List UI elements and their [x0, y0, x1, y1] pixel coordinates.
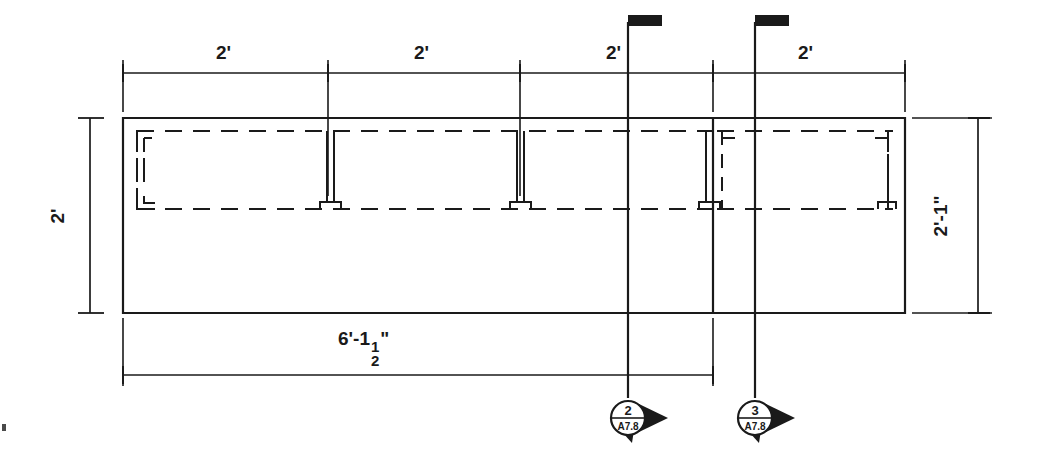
top-dimension-chain — [123, 60, 905, 196]
dim-bottom-inch-mark: " — [380, 328, 389, 349]
bottom-overall-dimension — [123, 318, 713, 386]
section-2-number: 2 — [624, 403, 631, 418]
section-3-flag-tab — [755, 15, 789, 26]
stud2-flange-bottom — [510, 202, 531, 209]
dim-bottom-fraction: 12 — [371, 340, 379, 369]
dim-label-top-3: 2' — [606, 42, 621, 64]
edge-registration-mark — [2, 424, 6, 431]
dim-label-left-vertical: 2' — [47, 201, 69, 231]
hidden-wall-lines — [137, 131, 893, 209]
dim-label-top-1: 2' — [216, 42, 231, 64]
dim-label-bottom-overall: 6'-112" — [338, 328, 389, 368]
dim-bottom-fraction-denominator: 2 — [371, 354, 379, 368]
section-3-number: 3 — [751, 403, 758, 418]
dim-label-top-2: 2' — [414, 42, 429, 64]
section-2-flag-tab — [628, 15, 662, 26]
right-slab-outline — [713, 118, 905, 313]
interior-stud-1 — [320, 131, 341, 209]
left-vertical-dimension — [78, 118, 104, 313]
corner-stud-left — [137, 131, 155, 209]
corner-stud-right-top — [875, 138, 888, 152]
dim-label-right-vertical: 2'-1" — [930, 181, 952, 251]
slab-outlines — [123, 118, 905, 313]
hidden-wall-returns — [722, 131, 888, 209]
divstud-flange-bottom — [699, 202, 720, 209]
architectural-drawing-svg: 2 A7.8 3 A7.8 — [0, 0, 1037, 455]
division-stud — [699, 131, 735, 209]
corner-stud-right — [875, 138, 896, 209]
stud1-flange-bottom — [320, 202, 341, 209]
corner-stud-left-bottom — [137, 188, 155, 209]
right-vertical-dimension — [912, 118, 992, 313]
left-slab-outline — [123, 118, 713, 313]
section-3-sheet: A7.8 — [744, 421, 766, 432]
section-2-sheet: A7.8 — [617, 421, 639, 432]
section-marker-2[interactable]: 2 A7.8 — [611, 401, 668, 443]
corner-stud-left-foot — [144, 196, 155, 203]
drawing-canvas: 2 A7.8 3 A7.8 2' 2' 2' 2' 2' 2'-1" 6'-11… — [0, 0, 1037, 455]
dim-label-top-4: 2' — [798, 42, 813, 64]
section-marker-3[interactable]: 3 A7.8 — [738, 401, 795, 443]
dim-bottom-feet: 6'-1 — [338, 328, 370, 349]
